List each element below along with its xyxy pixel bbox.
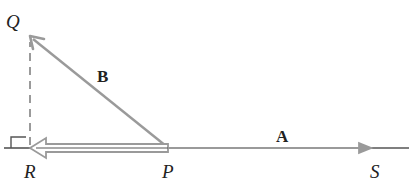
vector-b-arrow — [33, 39, 166, 146]
point-label-s: S — [370, 161, 380, 182]
point-label-p: P — [161, 161, 174, 182]
right-angle-marker — [11, 137, 26, 148]
projection-hollow-arrow — [30, 138, 168, 158]
point-label-q: Q — [6, 11, 20, 32]
point-label-r: R — [23, 161, 36, 182]
vector-projection-diagram: Q R P S A B — [0, 0, 411, 189]
vector-label-b: B — [97, 67, 108, 86]
vector-label-a: A — [276, 127, 289, 146]
